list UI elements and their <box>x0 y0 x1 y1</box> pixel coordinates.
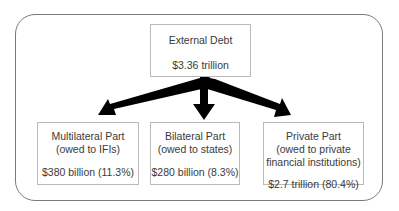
private-value: $2.7 trillion (80.4%) <box>264 178 363 191</box>
multilateral-title: Multilateral Part <box>38 130 138 143</box>
private-subtitle-line1: (owed to private <box>264 143 363 156</box>
external-debt-box: External Debt $3.36 trillion <box>150 24 251 77</box>
multilateral-part-box: Multilateral Part (owed to IFIs) $380 bi… <box>37 122 139 185</box>
bilateral-title: Bilateral Part <box>151 130 239 143</box>
external-debt-title: External Debt <box>151 34 250 47</box>
private-subtitle-line2: financial institutions) <box>264 156 363 169</box>
external-debt-value: $3.36 trillion <box>151 59 250 72</box>
bilateral-part-box: Bilateral Part (owed to states) $280 bil… <box>150 122 240 185</box>
bilateral-value: $280 billion (8.3%) <box>151 166 239 179</box>
private-title: Private Part <box>264 130 363 143</box>
bilateral-subtitle: (owed to states) <box>151 143 239 156</box>
private-part-box: Private Part (owed to private financial … <box>263 122 364 185</box>
multilateral-subtitle: (owed to IFIs) <box>38 143 138 156</box>
multilateral-value: $380 billion (11.3%) <box>38 166 138 179</box>
